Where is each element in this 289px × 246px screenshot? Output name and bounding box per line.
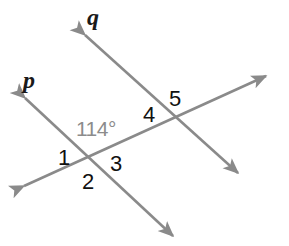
- angle-number-2: 2: [82, 171, 94, 193]
- angle-number-3: 3: [110, 153, 122, 175]
- line-label-p: p: [23, 68, 35, 92]
- angle-number-5: 5: [169, 88, 181, 110]
- angle-number-4: 4: [143, 104, 155, 126]
- geometry-diagram: p q 114° 1 2 3 4 5: [0, 0, 289, 246]
- angle-measure-114: 114°: [76, 118, 116, 139]
- line-label-q: q: [87, 5, 99, 29]
- line-q: [85, 35, 238, 173]
- angle-number-1: 1: [58, 147, 70, 169]
